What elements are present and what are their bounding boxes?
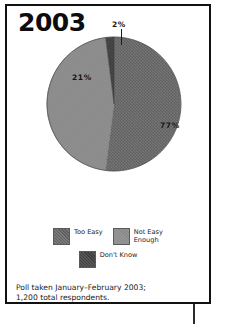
chart-legend: Too Easy Not Easy Enough Don't Know <box>10 228 206 268</box>
dont-know-leader-line <box>121 29 122 45</box>
chart-page: 2003 <box>0 0 242 324</box>
pie-label-not-easy-enough: 21% <box>72 73 92 82</box>
legend-item-too-easy: Too Easy <box>53 228 103 245</box>
legend-swatch-too-easy <box>53 228 70 245</box>
chart-footnote: Poll taken January–February 2003; 1,200 … <box>16 283 196 303</box>
legend-swatch-not-easy-enough <box>113 228 130 245</box>
legend-item-not-easy-enough: Not Easy Enough <box>113 228 163 245</box>
legend-item-dont-know: Don't Know <box>79 251 138 268</box>
legend-label-too-easy: Too Easy <box>74 228 103 237</box>
legend-label-dont-know: Don't Know <box>100 251 138 260</box>
legend-swatch-dont-know <box>79 251 96 268</box>
legend-row-secondary: Don't Know <box>10 251 206 268</box>
pie-slice-not-easy-enough <box>47 38 114 171</box>
pie-slice-too-easy <box>106 37 181 171</box>
registration-tick-mark <box>193 304 195 324</box>
legend-label-not-easy-enough: Not Easy Enough <box>134 228 163 244</box>
pie-chart <box>46 36 182 172</box>
legend-row-primary: Too Easy Not Easy Enough <box>10 228 206 245</box>
pie-label-dont-know: 2% <box>112 20 126 29</box>
pie-chart-svg <box>46 36 182 172</box>
pie-label-too-easy: 77% <box>160 121 180 130</box>
page-title: 2003 <box>18 10 86 35</box>
